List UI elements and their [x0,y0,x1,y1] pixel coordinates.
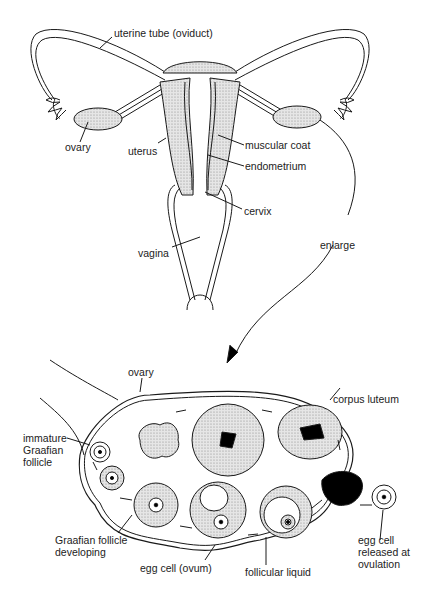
label-corpus-luteum: corpus luteum [333,393,399,405]
label-ovary-enlarged: ovary [128,366,154,378]
enlarge-arrow [235,120,355,355]
label-egg-released: egg cell released at ovulation [358,534,410,570]
ovary-right [273,106,321,128]
label-follicular-liquid: follicular liquid [245,566,311,578]
label-muscular-coat: muscular coat [245,139,310,151]
label-cervix: cervix [244,205,271,217]
uterus-left-wall [160,78,193,195]
reproductive-diagram [0,0,430,595]
label-endometrium: endometrium [245,160,306,172]
label-immature-follicle: immature Graafian follicle [23,432,67,468]
degenerating-corpus [139,423,179,458]
uterine-tubes [31,29,369,120]
vaginal-opening [187,295,213,310]
label-enlarge: enlarge [320,239,355,251]
label-ovary-top: ovary [65,141,91,153]
ovary-left [74,108,122,130]
label-uterus: uterus [128,145,157,157]
label-vagina: vagina [138,247,169,259]
label-uterine-tube: uterine tube (oviduct) [114,27,213,39]
uterus-right-wall [207,78,240,195]
label-follicle-developing: Graafian follicle developing [55,534,127,558]
label-egg-cell: egg cell (ovum) [140,562,212,574]
